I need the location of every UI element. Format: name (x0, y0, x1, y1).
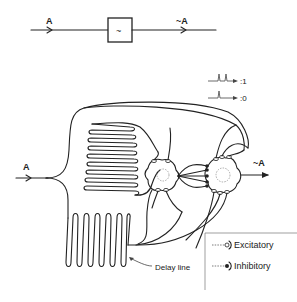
neuron-1 (145, 128, 182, 212)
pulse-two-label: :1 (240, 77, 247, 86)
arrow-icon (233, 79, 238, 83)
output-label: ~A (176, 16, 188, 26)
excitatory-synapse-icon (225, 243, 229, 247)
synapse-legend: Excitatory Inhibitory (205, 233, 297, 290)
not-gate-diagram: A ~ ~A :1 :0 A (0, 0, 297, 302)
gate-symbol: ~ (116, 26, 121, 36)
logic-block-diagram: A ~ ~A (31, 16, 216, 42)
pulse-legend: :1 :0 (208, 74, 247, 103)
inhibitory-label: Inhibitory (234, 261, 271, 271)
arrow-icon (233, 96, 238, 100)
neural-input-label: A (23, 162, 30, 172)
pulse-one-label: :0 (240, 94, 247, 103)
inhibitory-synapse-icon (225, 264, 229, 268)
delay-line-label: Delay line (155, 263, 191, 272)
input-label: A (46, 16, 53, 26)
neural-output-label: ~A (253, 158, 265, 168)
excitatory-label: Excitatory (234, 240, 274, 250)
